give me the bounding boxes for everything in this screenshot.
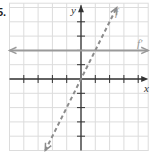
f-prime-label: f′ bbox=[137, 37, 143, 49]
grid-border bbox=[10, 3, 149, 150]
y-axis-label: y bbox=[70, 4, 76, 16]
y-axis-arrow-icon bbox=[78, 5, 84, 12]
graph: y x f f′ bbox=[0, 0, 152, 154]
grid-lines bbox=[10, 3, 149, 150]
axes bbox=[10, 5, 149, 150]
x-axis-label: x bbox=[143, 82, 149, 94]
